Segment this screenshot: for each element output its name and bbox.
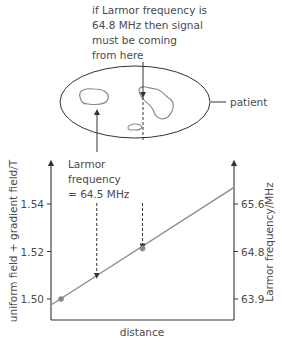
annotation-line: frequency [68, 173, 121, 185]
y-axis-left-label: uniform field + gradient field/T [7, 159, 19, 322]
top-annotation: if Larmor frequency is 64.8 MHz then sig… [92, 4, 207, 61]
annotation-line: = 64.5 MHz [68, 188, 130, 200]
left-tick-label: 1.54 [21, 198, 45, 210]
y-axis-right-label: Larmor frequency/MHz [263, 182, 275, 302]
organ-right [139, 87, 173, 119]
organ-small [128, 124, 142, 130]
left-tick-label: 1.52 [21, 246, 44, 258]
left-ticks: 1.501.521.54 [21, 198, 51, 305]
annotation-line: if Larmor frequency is [92, 4, 207, 16]
dashed-arrows-group [97, 203, 143, 276]
annotation-line: 64.8 MHz then signal [92, 19, 203, 31]
right-ticks: 63.964.865.6 [234, 198, 265, 305]
data-point-marker [140, 246, 146, 252]
mri-gradient-diagram: if Larmor frequency is 64.8 MHz then sig… [0, 0, 282, 346]
left-annotation: Larmor frequency = 64.5 MHz [68, 158, 130, 200]
data-point-marker [58, 296, 64, 302]
right-tick-label: 64.8 [241, 246, 264, 258]
right-tick-label: 63.9 [241, 293, 264, 305]
markers-group [58, 246, 145, 302]
annotation-line: Larmor [68, 158, 106, 170]
patient-label: patient [230, 96, 267, 108]
annotation-line: from here [92, 49, 143, 61]
organ-left [80, 89, 109, 105]
annotation-line: must be coming [92, 34, 177, 46]
right-tick-label: 65.6 [241, 198, 265, 210]
x-axis-label: distance [120, 326, 165, 338]
left-tick-label: 1.50 [21, 293, 44, 305]
